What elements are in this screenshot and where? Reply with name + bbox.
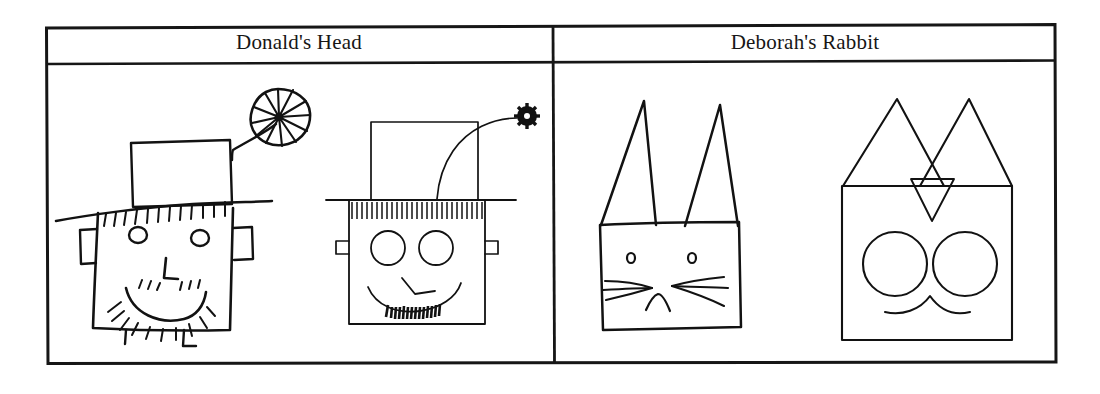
left-eye	[371, 231, 405, 265]
right-eye	[933, 232, 997, 296]
right-leg	[183, 330, 196, 346]
left-eye	[129, 227, 147, 243]
right-ear	[920, 99, 1012, 186]
gear-flower-icon	[514, 103, 540, 129]
mustache	[139, 280, 200, 290]
left-eye	[863, 232, 927, 296]
left-ear	[601, 101, 656, 225]
hat-crown	[371, 122, 478, 200]
right-ear	[685, 105, 738, 226]
right-eye	[419, 231, 453, 265]
donald-head-hand-drawn	[60, 80, 320, 355]
right-ear	[233, 227, 253, 260]
left-ear	[843, 99, 944, 186]
mouth	[126, 288, 206, 321]
nose	[402, 278, 435, 294]
flower-stem	[437, 118, 517, 199]
left-ear	[80, 229, 97, 264]
mouth	[885, 296, 970, 313]
hat-brim	[56, 201, 272, 221]
nose	[646, 294, 670, 311]
donald-head-computer-drawn	[330, 95, 560, 345]
right-eye	[191, 230, 209, 246]
nose	[164, 258, 178, 279]
hat-crown	[131, 140, 232, 207]
pinwheel-flower-icon	[251, 89, 310, 146]
face-outline	[349, 201, 485, 324]
page-root: Donald's Head Deborah's Rabbit	[0, 0, 1100, 394]
left-leg	[125, 330, 126, 344]
right-eye	[688, 253, 696, 263]
header-donalds-head: Donald's Head	[45, 25, 553, 59]
mouth	[368, 283, 461, 312]
deborah-rabbit-hand-drawn	[600, 95, 810, 345]
head-outline	[600, 222, 741, 330]
left-ear	[336, 241, 349, 254]
right-ear	[485, 241, 498, 254]
deborah-rabbit-computer-drawn	[832, 90, 1042, 350]
left-eye	[627, 253, 635, 263]
hair-hatching	[352, 202, 482, 219]
header-deborahs-rabbit: Deborah's Rabbit	[553, 25, 1057, 59]
